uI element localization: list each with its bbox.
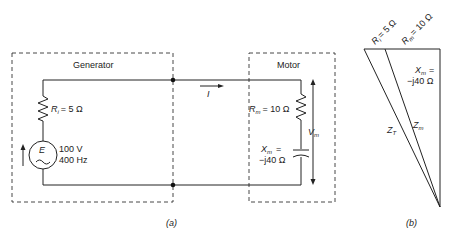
caption-b: (b): [406, 218, 417, 228]
capacitor-plate-bottom: [293, 155, 309, 157]
source-frequency: 400 Hz: [59, 155, 88, 165]
phasor-zt-label: ZT: [386, 125, 398, 136]
motor-title: Motor: [277, 60, 300, 70]
top-wire: [43, 80, 301, 94]
vm-label: Vm: [308, 127, 319, 138]
rm-label: Rm= 10 Ω: [249, 104, 290, 115]
xm-label: Xm=: [260, 144, 281, 155]
bottom-wire: [43, 166, 301, 185]
phasor-rm-label: Rm= 10 Ω: [399, 11, 435, 47]
current-label: I: [207, 89, 210, 99]
resistor-ri-icon: [38, 93, 48, 141]
phasor-xm-label: Xm=: [414, 65, 434, 76]
xm-value: −j40 Ω: [259, 155, 286, 165]
generator-box: [12, 53, 173, 202]
motor-box: [249, 53, 335, 202]
circuit-diagram: Generator Motor Ri= 5 Ω E 100 V 400 Hz I…: [0, 0, 449, 234]
source-symbol: E: [39, 145, 46, 155]
generator-title: Generator: [73, 60, 114, 70]
current-arrowhead-icon: [218, 84, 224, 88]
source-voltage: 100 V: [59, 144, 83, 154]
source-arrowhead-icon: [21, 144, 26, 150]
vm-arrowhead-bottom-icon: [311, 179, 316, 185]
phasor-zm-label: Zm: [412, 120, 424, 131]
caption-a: (a): [166, 218, 177, 228]
resistor-rm-icon: [296, 94, 306, 149]
junction-dot-top: [171, 78, 176, 83]
phasor-xm-value: −j40 Ω: [407, 76, 434, 86]
vm-arrowhead-top-icon: [311, 79, 316, 85]
junction-dot-bottom: [171, 183, 176, 188]
sine-wave-icon: [36, 160, 50, 164]
phasor-ri-label: Ri= 5 Ω: [369, 17, 399, 47]
ri-label: Ri= 5 Ω: [51, 104, 83, 115]
